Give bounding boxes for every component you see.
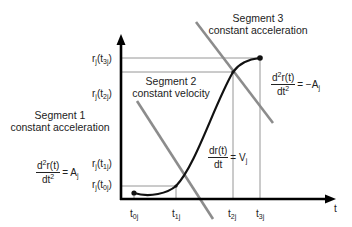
x-tick-t1: t1j <box>172 208 180 219</box>
x-tick-t2: t2j <box>228 208 236 219</box>
y-tick-r-t2: rj(t2j) <box>92 88 112 99</box>
x-tick-sub: 3j <box>259 213 264 220</box>
y-axis-arrow-icon <box>117 34 126 45</box>
eq-sub: j <box>246 157 248 164</box>
eq-text: dt <box>214 159 222 170</box>
equation-segment-1: d2r(t) dt2 = Aj <box>36 160 79 185</box>
y-tick-text: ) <box>108 88 111 99</box>
x-tick-sub: 2j <box>231 213 236 220</box>
start-point <box>131 190 136 195</box>
tangent-line-t1 <box>137 101 213 219</box>
eq-text: dr(t) <box>209 145 227 156</box>
x-tick-sub: 1j <box>175 213 180 220</box>
segment-1-title: Segment 1 <box>10 109 110 121</box>
eq-text: r(t) <box>46 160 59 171</box>
eq-text: = A <box>62 167 77 178</box>
y-tick-text: ) <box>108 158 111 169</box>
segment-2-subtitle: constant velocity <box>126 87 216 99</box>
eq-sub: j <box>318 84 320 91</box>
eq-sup: 2 <box>285 85 289 92</box>
eq-text: r(t) <box>281 72 294 83</box>
segment-1-label: Segment 1 constant acceleration <box>10 109 110 133</box>
end-point <box>257 55 263 61</box>
equation-segment-2: dr(t) dt = Vj <box>208 145 247 170</box>
y-tick-r-t3: rj(t3j) <box>92 53 112 64</box>
segment-2-title: Segment 2 <box>126 75 216 87</box>
equation-segment-3: d2r(t) dt2 = −Aj <box>271 72 320 97</box>
x-axis-label: t <box>334 203 337 214</box>
segment-3-subtitle: constant acceleration <box>208 24 308 36</box>
eq-sup: 2 <box>50 173 54 180</box>
eq-text: = −A <box>297 79 318 90</box>
eq-text: = V <box>230 152 245 163</box>
tangent-lines <box>137 22 273 219</box>
inflection-point-1 <box>174 184 177 187</box>
y-tick-r-t1: rj(t1j) <box>92 158 112 169</box>
eq-sub: j <box>77 172 79 179</box>
segment-3-label: Segment 3 constant acceleration <box>208 12 308 36</box>
y-tick-text: ) <box>108 53 111 64</box>
segment-2-label: Segment 2 constant velocity <box>126 75 216 99</box>
motion-profile-diagram: rj(t3j) rj(t2j) rj(t1j) rj(t0j) t0j t1j … <box>0 0 352 227</box>
y-tick-text: ) <box>108 179 111 190</box>
y-tick-r-t0: rj(t0j) <box>92 179 112 190</box>
x-tick-t3: t3j <box>256 208 264 219</box>
segment-3-title: Segment 3 <box>208 12 308 24</box>
x-tick-t0: t0j <box>130 208 138 219</box>
inflection-point-2 <box>231 70 234 73</box>
segment-1-subtitle: constant acceleration <box>10 121 110 133</box>
x-tick-sub: 0j <box>133 213 138 220</box>
